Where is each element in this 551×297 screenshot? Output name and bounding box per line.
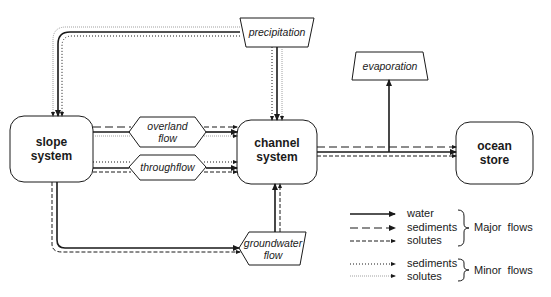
ocean-line2: store — [456, 153, 533, 167]
precipitation-label: precipitation — [242, 26, 312, 38]
legend-minor-label: Minor flows — [474, 264, 533, 277]
major-brace — [458, 210, 469, 246]
legend-major-label: Major flows — [474, 221, 533, 234]
overland-flow-label: overland flow — [130, 120, 205, 144]
groundwater-line1: groundwater — [240, 237, 306, 249]
legend-major-sediments: sediments — [407, 221, 457, 234]
slope-line1: slope — [10, 135, 93, 149]
throughflow-label: throughflow — [130, 161, 205, 173]
ocean-store-label: ocean store — [456, 139, 533, 167]
channel-line2: system — [237, 150, 317, 164]
slope-system-label: slope system — [10, 135, 93, 163]
minor-brace — [458, 259, 469, 281]
channel-system-label: channel system — [237, 136, 317, 164]
slope-line2: system — [10, 149, 93, 163]
evaporation-label: evaporation — [354, 60, 426, 72]
legend-minor-solutes: solutes — [407, 270, 442, 283]
groundwater-line2: flow — [240, 249, 306, 261]
groundwater-flow-label: groundwater flow — [240, 237, 306, 261]
legend-major-solutes: solutes — [407, 234, 442, 247]
ocean-line1: ocean — [456, 139, 533, 153]
legend-water: water — [407, 207, 434, 220]
overland-line1: overland — [130, 120, 205, 132]
legend-minor-sediments: sediments — [407, 257, 457, 270]
channel-line1: channel — [237, 136, 317, 150]
overland-line2: flow — [130, 132, 205, 144]
